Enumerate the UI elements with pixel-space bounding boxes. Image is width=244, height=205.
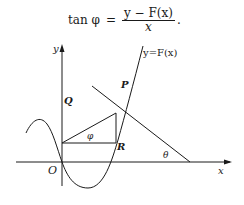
angle-label-theta: θ (163, 150, 168, 160)
y-axis-label: y (53, 44, 59, 54)
origin-label: O (48, 166, 57, 176)
point-label-P: P (121, 80, 129, 90)
point-label-Q: Q (64, 96, 73, 106)
curve-label: y=F(x) (143, 48, 177, 58)
tangent-line (92, 86, 190, 162)
angle-label-phi: φ (87, 131, 93, 141)
x-axis-arrow-icon (224, 160, 232, 165)
x-axis-label: x (218, 166, 224, 176)
y-axis-arrow-icon (60, 44, 65, 52)
geometry-figure (0, 0, 244, 205)
point-label-R: R (117, 142, 125, 152)
function-curve (26, 46, 143, 188)
